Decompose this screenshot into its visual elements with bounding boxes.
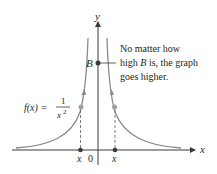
svg-text:x: x (56, 110, 61, 120)
graph-canvas: y x 0 x x B No matter how high B is, the… (0, 0, 217, 174)
origin-label: 0 (88, 153, 93, 164)
b-point (96, 61, 101, 66)
b-label: B (86, 57, 93, 69)
curve-point-right (112, 105, 117, 110)
x-label-right: x (111, 153, 117, 164)
annotation-line-1: No matter how (120, 43, 181, 54)
x-axis-label: x (199, 143, 205, 155)
curve-left-branch (16, 38, 88, 148)
svg-text:2: 2 (63, 108, 67, 116)
x-label-left: x (76, 153, 82, 164)
y-axis-label: y (94, 10, 100, 22)
annotation-line-2: high B is, the graph (120, 57, 198, 68)
curve-point-left (79, 105, 84, 110)
annotation-line-3: goes higher. (120, 71, 168, 82)
svg-text:1: 1 (61, 96, 66, 106)
function-label: f(x) = 1 x 2 (24, 96, 70, 120)
svg-text:f(x) =: f(x) = (24, 102, 47, 114)
x-point-right (113, 148, 118, 153)
curve-right-branch (107, 38, 181, 148)
x-point-left (78, 148, 83, 153)
